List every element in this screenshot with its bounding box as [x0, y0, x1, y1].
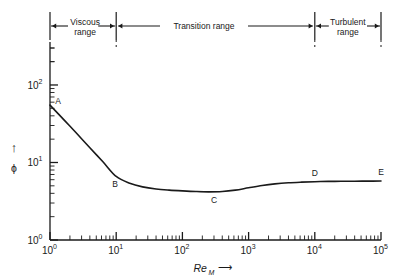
svg-text:2: 2 — [39, 78, 43, 85]
range-label-transition-line1: Transition range — [173, 21, 234, 31]
svg-text:4: 4 — [318, 243, 322, 250]
svg-text:2: 2 — [186, 243, 190, 250]
curve-point-label-e: E — [378, 167, 384, 177]
svg-text:1: 1 — [39, 155, 43, 162]
chart-background — [0, 0, 403, 280]
curve-point-label-c: C — [211, 195, 217, 205]
svg-text:0: 0 — [53, 243, 57, 250]
svg-text:10: 10 — [307, 245, 319, 256]
svg-text:10: 10 — [373, 245, 385, 256]
range-label-turbulent-line2: range — [337, 27, 359, 37]
y-axis-title-text: ϕ — [11, 162, 17, 174]
curve-point-label-a: A — [55, 96, 61, 106]
svg-text:10: 10 — [108, 245, 120, 256]
svg-text:10: 10 — [27, 157, 39, 168]
svg-text:10: 10 — [174, 245, 186, 256]
range-label-viscous-line2: range — [74, 27, 96, 37]
y-axis-title-arrow: ↑ — [11, 140, 18, 155]
curve-point-label-b: B — [112, 179, 118, 189]
x-axis-title-text: Re — [194, 262, 208, 274]
range-label-turbulent-line1: Turbulent — [330, 17, 366, 27]
svg-text:10: 10 — [27, 80, 39, 91]
svg-text:0: 0 — [39, 233, 43, 240]
svg-text:10: 10 — [241, 245, 253, 256]
svg-text:1: 1 — [119, 243, 123, 250]
svg-text:3: 3 — [252, 243, 256, 250]
svg-text:10: 10 — [42, 245, 54, 256]
reynolds-friction-chart: Viscous range Transition range Turbulent… — [0, 0, 403, 280]
x-axis-title-subscript: M — [209, 269, 215, 276]
curve-point-label-d: D — [312, 168, 318, 178]
range-label-viscous-line1: Viscous — [70, 17, 100, 27]
svg-text:5: 5 — [384, 243, 388, 250]
x-axis-title-arrow: ⟶ — [218, 262, 232, 273]
svg-text:10: 10 — [27, 235, 39, 246]
